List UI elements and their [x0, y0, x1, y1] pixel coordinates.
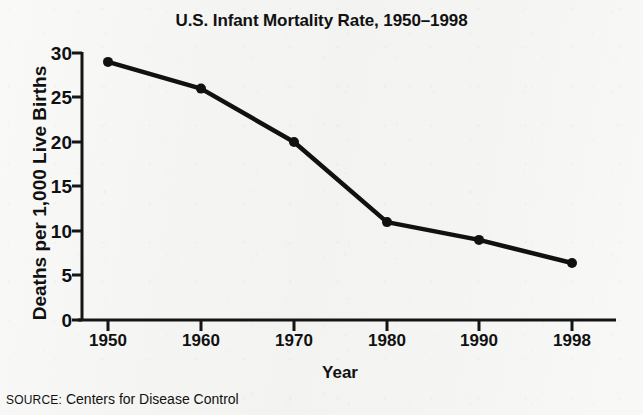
- data-point-1980: [382, 217, 392, 227]
- plot-area: [0, 0, 643, 415]
- data-point-1970: [289, 137, 299, 147]
- source-text: Centers for Disease Control: [66, 391, 239, 407]
- data-point-1960: [196, 84, 206, 94]
- data-point-1990: [474, 235, 484, 245]
- source-prefix: SOURCE:: [6, 393, 62, 407]
- source-note: SOURCE: Centers for Disease Control: [6, 391, 239, 407]
- chart-figure: U.S. Infant Mortality Rate, 1950–1998 De…: [0, 0, 643, 415]
- data-series-line: [108, 62, 572, 263]
- data-point-markers: [103, 57, 577, 268]
- data-point-1950: [103, 57, 113, 67]
- data-point-1998: [567, 258, 577, 268]
- x-axis-ticks: [108, 320, 572, 331]
